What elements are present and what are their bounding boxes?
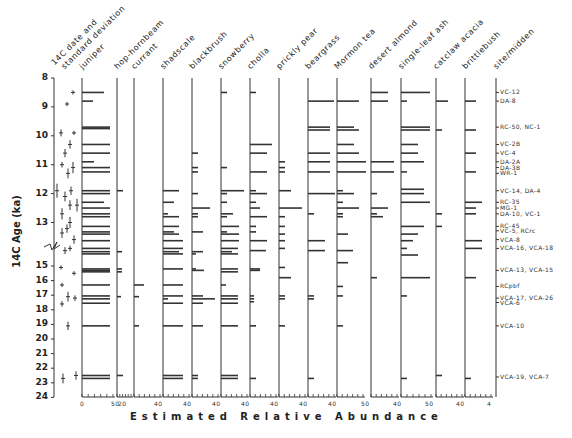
x-tick-label: 40 [299,400,308,407]
site-label: RCpbf [500,282,520,289]
x-tick-label: 40 [328,400,337,407]
x-tick-label: 40 [241,400,250,407]
x-tick-label: 40 [183,400,192,407]
y-tick-label: 9 [26,101,48,111]
x-tick-label: 40 [212,400,221,407]
y-tick-label: 21 [26,348,48,358]
x-tick-label: 20 [118,400,127,407]
pollen-midden-diagram: 14C date and standard deviation juniper … [0,0,572,438]
y-tick-label: 15 [26,260,48,270]
site-label: VCA-13, VCA-15 [500,266,554,273]
site-label: DA-8 [500,97,516,104]
y-tick-label: 18 [26,304,48,314]
x-tick-label: 40 [393,400,402,407]
site-label: RC-50, NC-1 [500,123,541,130]
site-label: VC-4 [500,149,516,156]
x-tick-label: 50 [361,400,370,407]
y-tick-label: 17 [26,289,48,299]
y-tick-label: 10 [26,130,48,140]
x-tick-label: 50 [425,400,434,407]
site-label: VCA-6 [500,299,520,306]
y-tick-label: 20 [26,333,48,343]
site-label: VC-2B [500,140,520,147]
y-tick-label: 19 [26,318,48,328]
site-label: WR-1 [500,169,517,176]
y-tick-label: 12 [26,188,48,198]
y-tick-label: 13 [26,217,48,227]
y-tick-label: 22 [26,362,48,372]
x-tick-label: 0 [80,400,84,407]
y-tick-label: 16 [26,275,48,285]
y-tick-label: 24 [26,391,48,401]
y-axis-title: 14C Age (ka) [11,195,22,267]
x-axis-title: Estimated Relative Abundance [130,411,443,422]
site-label: VCA-8 [500,236,520,243]
x-tick-label: 40 [270,400,279,407]
site-label: VCA-10 [500,322,524,329]
x-tick-label: 40 [154,400,163,407]
site-label: VCA-16, VCA-18 [500,244,554,251]
y-tick-label: 11 [26,159,48,169]
site-label: DA-10, VC-1 [500,210,541,217]
y-tick-label: 8 [26,72,48,82]
site-label: VC-14, DA-4 [500,187,541,194]
site-label: VCA-19, VCA-7 [500,373,549,380]
site-label: VC-5, RCrc [500,227,536,234]
y-tick-label: 23 [26,377,48,387]
x-tick-label: 40 [456,400,465,407]
site-label: VC-12 [500,88,520,95]
x-tick-label: 4 [487,400,491,407]
